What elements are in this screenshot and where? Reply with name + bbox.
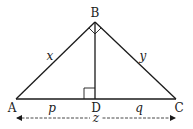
side-bc [95, 22, 176, 99]
segment-label-q: q [135, 101, 143, 115]
right-angle-marker-d [84, 88, 95, 99]
side-label-y: y [139, 49, 147, 63]
triangle-diagram: B A D C x y p q z [0, 0, 193, 129]
length-label-z: z [92, 111, 100, 125]
vertex-label-c: C [174, 101, 183, 115]
vertex-label-b: B [91, 6, 100, 20]
segment-label-p: p [48, 101, 56, 115]
vertex-label-a: A [7, 101, 17, 115]
side-ab [16, 22, 95, 99]
side-label-x: x [47, 49, 54, 63]
